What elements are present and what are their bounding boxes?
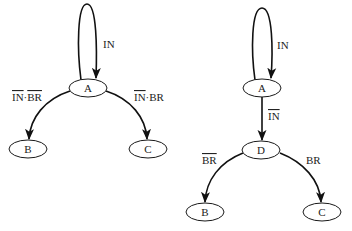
- state-diagrams: IN IN·BR IN·BR A B C IN: [0, 0, 352, 231]
- left-diagram: IN IN·BR IN·BR A B C: [9, 4, 167, 158]
- node-left-b: B: [9, 140, 47, 158]
- edge-label-right-d-c: BR: [306, 154, 321, 166]
- node-label: D: [257, 144, 265, 156]
- edge-left-a-self-loop: [79, 4, 97, 80]
- edge-label-right-a-self: IN: [277, 39, 289, 51]
- node-label: A: [258, 82, 266, 94]
- node-right-a: A: [243, 79, 281, 97]
- node-label: C: [318, 206, 325, 218]
- node-label: B: [24, 143, 31, 155]
- edge-label-left-a-b: IN·BR: [12, 91, 43, 103]
- node-right-d: D: [242, 141, 280, 159]
- edge-right-a-self-loop: [253, 8, 272, 80]
- edge-label-right-a-d: IN: [268, 110, 280, 122]
- node-right-b: B: [186, 203, 224, 221]
- right-diagram: IN IN BR BR A D B: [186, 8, 341, 221]
- node-right-c: C: [303, 203, 341, 221]
- edge-label-left-a-self: IN: [103, 38, 115, 50]
- node-left-c: C: [129, 140, 167, 158]
- edge-label-right-d-b: BR: [202, 154, 217, 166]
- node-label: C: [144, 143, 151, 155]
- node-left-a: A: [69, 79, 107, 97]
- node-label: B: [201, 206, 208, 218]
- edge-label-left-a-c: IN·BR: [134, 91, 165, 103]
- node-label: A: [84, 82, 92, 94]
